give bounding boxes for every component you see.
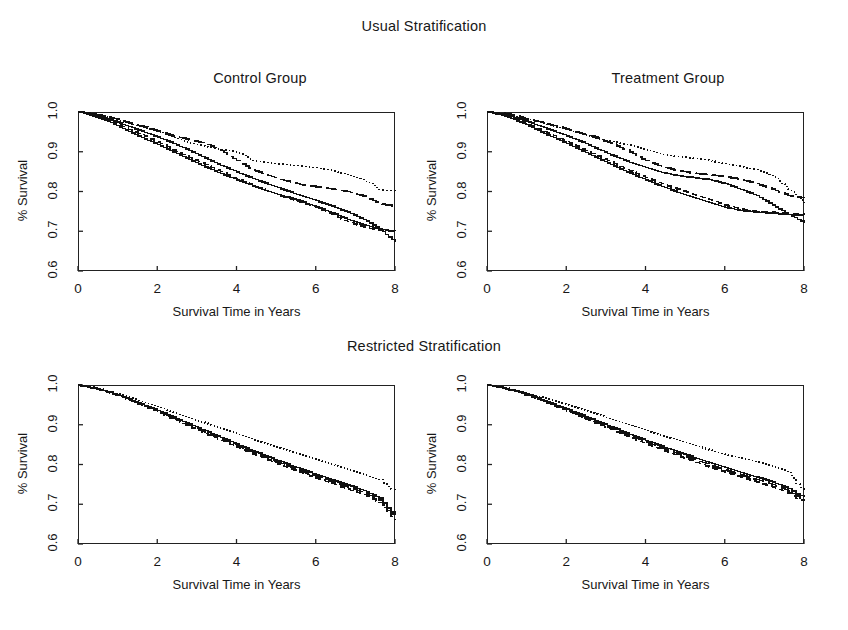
y-tick-label: 0.9 xyxy=(454,132,469,168)
survival-curve-stratum-1-solid xyxy=(78,112,395,242)
x-tick-label: 6 xyxy=(713,281,737,296)
curves-layer xyxy=(0,0,848,630)
y-tick-label: 1.0 xyxy=(45,93,60,129)
survival-curve-stratum-4-dotted xyxy=(487,112,804,203)
x-tick-label: 4 xyxy=(634,281,658,296)
y-tick-label: 0.6 xyxy=(454,252,469,288)
survival-curve-stratum-3-longdash xyxy=(487,385,804,499)
x-tick-label: 6 xyxy=(304,554,328,569)
y-tick-label: 0.6 xyxy=(454,525,469,561)
x-tick-label: 8 xyxy=(792,554,816,569)
survival-curve-stratum-4-dotted xyxy=(78,112,395,192)
plot-frame xyxy=(487,385,804,544)
y-tick-label: 0.6 xyxy=(45,525,60,561)
y-tick-label: 1.0 xyxy=(45,366,60,402)
panel-title-treatment: Treatment Group xyxy=(548,70,788,86)
section-title-restricted: Restricted Stratification xyxy=(0,338,848,354)
y-tick-label: 0.7 xyxy=(454,212,469,248)
y-tick-label: 0.7 xyxy=(45,212,60,248)
y-axis-label: % Survival xyxy=(15,423,30,503)
x-axis-label: Survival Time in Years xyxy=(487,577,804,592)
plot-frame xyxy=(78,385,395,544)
survival-curve-stratum-5-solid-lower xyxy=(487,112,804,215)
survival-curve-stratum-2-dashed xyxy=(78,385,395,520)
survival-curve-stratum-2-dashed xyxy=(78,112,395,231)
y-tick-label: 0.8 xyxy=(454,445,469,481)
survival-curve-stratum-3-longdash xyxy=(487,112,804,198)
y-axis-label: % Survival xyxy=(15,150,30,230)
survival-figure: Usual Stratification Control Group Treat… xyxy=(0,0,848,630)
x-tick-label: 4 xyxy=(225,281,249,296)
x-tick-label: 8 xyxy=(792,281,816,296)
y-tick-label: 0.7 xyxy=(454,485,469,521)
x-tick-label: 0 xyxy=(66,281,90,296)
section-title-usual: Usual Stratification xyxy=(0,18,848,34)
x-tick-label: 2 xyxy=(554,281,578,296)
y-tick-label: 0.8 xyxy=(45,172,60,208)
y-tick-label: 0.9 xyxy=(454,405,469,441)
x-tick-label: 2 xyxy=(145,554,169,569)
y-axis-label: % Survival xyxy=(424,423,439,503)
x-axis-label: Survival Time in Years xyxy=(78,304,395,319)
x-tick-label: 0 xyxy=(66,554,90,569)
x-tick-label: 4 xyxy=(225,554,249,569)
y-tick-label: 1.0 xyxy=(454,93,469,129)
plot-panel-br: 0.60.70.80.91.0% Survival02468Survival T… xyxy=(0,0,848,630)
survival-curve-stratum-2-dashed xyxy=(487,112,804,214)
curves-layer xyxy=(0,0,848,630)
y-tick-label: 0.6 xyxy=(45,252,60,288)
x-tick-label: 0 xyxy=(475,281,499,296)
curves-layer xyxy=(0,0,848,630)
plot-frame xyxy=(78,112,395,271)
y-tick-label: 0.8 xyxy=(45,445,60,481)
survival-curve-stratum-3-longdash xyxy=(78,112,395,207)
x-tick-label: 8 xyxy=(383,281,407,296)
survival-curve-stratum-3-longdash xyxy=(78,385,395,518)
y-tick-label: 0.8 xyxy=(454,172,469,208)
panel-title-control: Control Group xyxy=(140,70,380,86)
x-tick-label: 0 xyxy=(475,554,499,569)
survival-curve-stratum-4-dotted xyxy=(487,385,804,492)
survival-curve-stratum-1-solid xyxy=(487,112,804,223)
x-tick-label: 2 xyxy=(145,281,169,296)
x-tick-label: 2 xyxy=(554,554,578,569)
curves-layer xyxy=(0,0,848,630)
survival-curve-stratum-4-dotted xyxy=(78,385,395,492)
x-tick-label: 6 xyxy=(304,281,328,296)
x-axis-label: Survival Time in Years xyxy=(78,577,395,592)
x-tick-label: 6 xyxy=(713,554,737,569)
y-axis-label: % Survival xyxy=(424,150,439,230)
plot-panel-tl: 0.60.70.80.91.0% Survival02468Survival T… xyxy=(0,0,848,630)
y-tick-label: 0.7 xyxy=(45,485,60,521)
x-tick-label: 4 xyxy=(634,554,658,569)
y-tick-label: 1.0 xyxy=(454,366,469,402)
survival-curve-stratum-1-solid xyxy=(487,385,804,497)
x-tick-label: 8 xyxy=(383,554,407,569)
plot-panel-tr: 0.60.70.80.91.0% Survival02468Survival T… xyxy=(0,0,848,630)
y-tick-label: 0.9 xyxy=(45,405,60,441)
plot-frame xyxy=(487,112,804,271)
plot-panel-bl: 0.60.70.80.91.0% Survival02468Survival T… xyxy=(0,0,848,630)
survival-curve-stratum-5-solid-lower xyxy=(78,112,395,231)
survival-curve-stratum-1-solid xyxy=(78,385,395,515)
x-axis-label: Survival Time in Years xyxy=(487,304,804,319)
survival-curve-stratum-2-dashed xyxy=(487,385,804,501)
y-tick-label: 0.9 xyxy=(45,132,60,168)
